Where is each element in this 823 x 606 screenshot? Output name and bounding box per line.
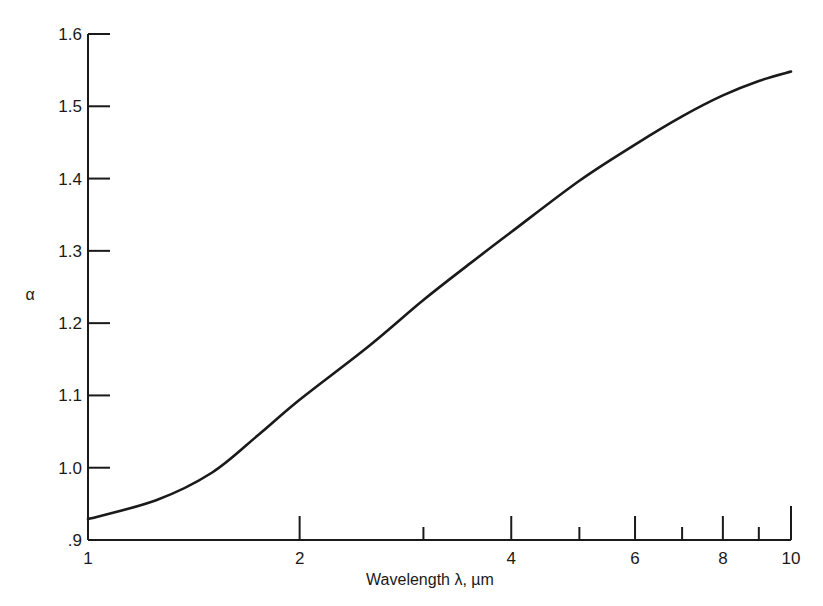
x-axis-title: Wavelength λ, µm [366,571,494,588]
chart-svg: .91.01.11.21.31.41.51.6 1246810 α Wavele… [0,0,823,606]
x-tick-label: 2 [295,549,304,568]
alpha-curve [88,72,791,519]
y-tick-label: 1.6 [58,25,82,44]
y-tick-label: 1.1 [58,386,82,405]
y-tick-label: .9 [68,531,82,550]
x-tick-label: 8 [718,549,727,568]
y-tick-label: 1.0 [58,459,82,478]
x-tick-label: 10 [782,549,801,568]
y-tick-label: 1.4 [58,170,82,189]
y-tick-label: 1.5 [58,97,82,116]
y-tick-label: 1.2 [58,314,82,333]
y-axis-ticks: .91.01.11.21.31.41.51.6 [58,25,110,550]
y-axis-title: α [25,286,34,303]
y-tick-label: 1.3 [58,242,82,261]
x-axis-ticks: 1246810 [83,516,800,568]
x-tick-label: 4 [507,549,516,568]
x-tick-label: 6 [630,549,639,568]
x-tick-label: 1 [83,549,92,568]
